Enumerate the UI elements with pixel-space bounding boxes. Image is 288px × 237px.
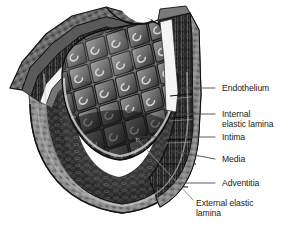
- label-internal-elastic-lamina-line-2: elastic lamina: [222, 120, 273, 130]
- artery-cross-section-figure: Endothelium Internal elastic lamina Inti…: [0, 0, 288, 237]
- label-intima: Intima: [222, 133, 245, 143]
- label-media-line-1: Media: [222, 155, 245, 165]
- label-external-elastic-lamina-line-2: lamina: [196, 209, 253, 219]
- label-endothelium: Endothelium: [222, 84, 269, 94]
- label-intima-line-1: Intima: [222, 133, 245, 143]
- label-endothelium-line-1: Endothelium: [222, 84, 269, 94]
- label-media: Media: [222, 155, 245, 165]
- label-internal-elastic-lamina: Internal elastic lamina: [222, 110, 273, 129]
- label-external-elastic-lamina: External elastic lamina: [196, 199, 253, 218]
- label-adventitia-line-1: Adventitia: [222, 179, 259, 189]
- label-adventitia: Adventitia: [222, 179, 259, 189]
